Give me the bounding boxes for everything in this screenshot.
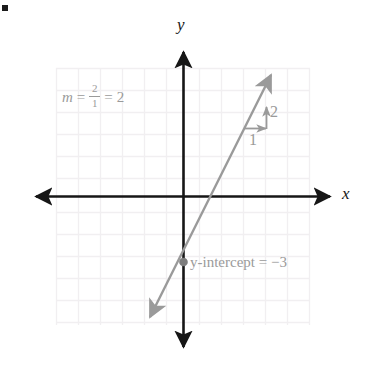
slope-fraction: 2 1: [89, 83, 100, 109]
y-axis-label: y: [177, 16, 185, 33]
slope-variable: m: [62, 90, 73, 105]
linear-graph-figure: y x m = 2 1 = 2 2 1 y-intercept = −3: [0, 0, 372, 371]
run-label: 1: [249, 132, 257, 148]
slope-equals-second: =: [104, 90, 112, 105]
slope-equals-first: =: [77, 90, 85, 105]
slope-numerator: 2: [90, 83, 100, 95]
x-axis-label: x: [342, 185, 350, 202]
coordinate-plane-svg: [0, 0, 372, 371]
y-intercept-point: [179, 258, 188, 267]
y-intercept-label: y-intercept = −3: [190, 255, 287, 270]
slope-denominator: 1: [90, 98, 100, 110]
slope-annotation: m = 2 1 = 2: [62, 84, 124, 110]
slope-value: 2: [117, 90, 125, 105]
rise-label: 2: [270, 104, 278, 120]
